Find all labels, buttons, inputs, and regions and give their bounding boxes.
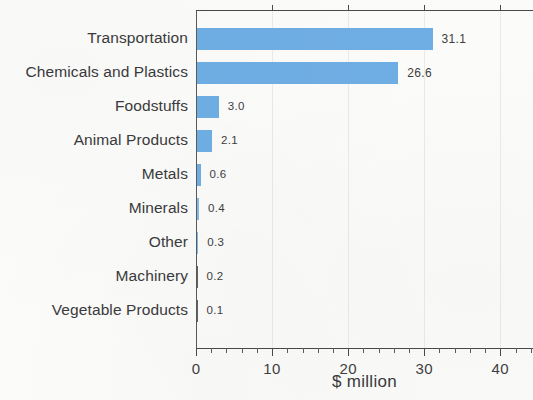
gridline-10 [272,10,273,348]
bar-value-label: 0.2 [207,270,224,282]
x-tick-minor-12 [287,348,288,353]
x-axis-title: $ million [196,372,533,392]
category-label: Transportation [0,29,188,47]
y-axis-line [196,10,197,348]
bar-value-label: 31.1 [442,32,467,46]
x-tick-minor-16 [318,348,319,353]
x-tick-minor-34 [455,348,456,353]
x-tick-minor-2 [211,348,212,353]
bar [196,28,433,50]
plot-area: 31.126.63.02.10.60.40.30.20.1 010203040 [196,10,533,348]
category-label: Foodstuffs [0,97,188,115]
plot-top-border [196,10,533,11]
category-label: Minerals [0,199,188,217]
x-tick-minor-28 [409,348,410,353]
category-label: Metals [0,165,188,183]
x-tick-minor-4 [226,348,227,353]
bar-chart: TransportationChemicals and PlasticsFood… [0,0,533,400]
category-label: Vegetable Products [0,301,188,319]
category-axis-labels: TransportationChemicals and PlasticsFood… [0,0,188,400]
x-tick-minor-36 [470,348,471,353]
bar-value-label: 0.4 [208,202,225,214]
x-tick-minor-22 [363,348,364,353]
x-tick-minor-42 [516,348,517,353]
x-tick-major-0 [196,348,197,356]
category-label: Machinery [0,267,188,285]
category-label: Other [0,233,188,251]
gridline-20 [348,10,349,348]
gridline-30 [424,10,425,348]
bar [196,62,398,84]
bar-value-label: 0.1 [207,304,224,316]
x-axis-line [196,348,533,349]
x-tick-minor-26 [394,348,395,353]
bar-value-label: 0.6 [210,168,227,180]
x-tick-minor-44 [531,348,532,353]
x-tick-major-20 [348,348,349,356]
x-tick-major-40 [500,348,501,356]
x-tick-minor-14 [303,348,304,353]
x-tick-minor-24 [379,348,380,353]
bar [196,96,219,118]
x-tick-minor-38 [485,348,486,353]
gridline-40 [500,10,501,348]
x-tick-minor-6 [242,348,243,353]
bar-value-label: 0.3 [207,236,224,248]
bar [196,130,212,152]
bar-value-label: 26.6 [407,66,432,80]
x-tick-minor-8 [257,348,258,353]
bar-value-label: 3.0 [228,100,245,112]
category-label: Chemicals and Plastics [0,63,188,81]
category-label: Animal Products [0,131,188,149]
x-tick-minor-32 [439,348,440,353]
x-tick-minor-18 [333,348,334,353]
x-tick-major-10 [272,348,273,356]
x-tick-major-30 [424,348,425,356]
bar-value-label: 2.1 [221,134,238,146]
